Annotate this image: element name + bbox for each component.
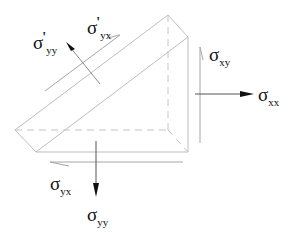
label-sigma-yx: σyx: [50, 174, 71, 193]
label-sigma-xx: σxx: [258, 85, 279, 104]
left-depth-edge: [15, 130, 36, 152]
label-sigma-yx-prime: σ'yx: [87, 18, 111, 37]
front-hypotenuse-edge: [36, 37, 188, 152]
subscript: yy: [46, 44, 57, 56]
dashed-corner-edge: [168, 130, 188, 152]
sigma-yy-prime-arrow: [66, 42, 100, 84]
sigma-symbol: σ: [258, 84, 268, 105]
label-sigma-yy: σyy: [87, 205, 108, 224]
label-sigma-xy: σxy: [209, 45, 230, 64]
prime-mark: ': [42, 30, 46, 45]
top-depth-edge: [168, 15, 188, 37]
label-sigma-yy-prime: σ'yy: [33, 33, 57, 52]
sigma-xx-arrow: [195, 91, 254, 97]
sigma-symbol: σ: [209, 44, 219, 65]
sigma-yx-shear: [50, 162, 183, 166]
subscript: xy: [219, 56, 230, 68]
subscript: yx: [60, 185, 71, 197]
sigma-xy-shear: [200, 47, 203, 143]
sigma-symbol: σ: [50, 173, 60, 194]
subscript: xx: [268, 96, 279, 108]
subscript: yx: [100, 29, 111, 41]
sigma-yy-arrow: [93, 141, 99, 197]
subscript: yy: [97, 216, 108, 228]
stress-wedge-diagram: σ'yy σ'yx σxy σxx σyx σyy: [0, 0, 290, 232]
sigma-symbol: σ: [87, 204, 97, 225]
prime-mark: ': [96, 15, 100, 30]
